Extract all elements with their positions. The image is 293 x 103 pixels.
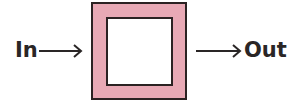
- process-block: [91, 2, 187, 100]
- output-label: Out: [244, 40, 287, 61]
- input-label: In: [15, 40, 38, 61]
- input-arrow-icon: [39, 44, 83, 60]
- output-arrow-icon: [196, 44, 242, 60]
- process-block-inner: [106, 17, 173, 86]
